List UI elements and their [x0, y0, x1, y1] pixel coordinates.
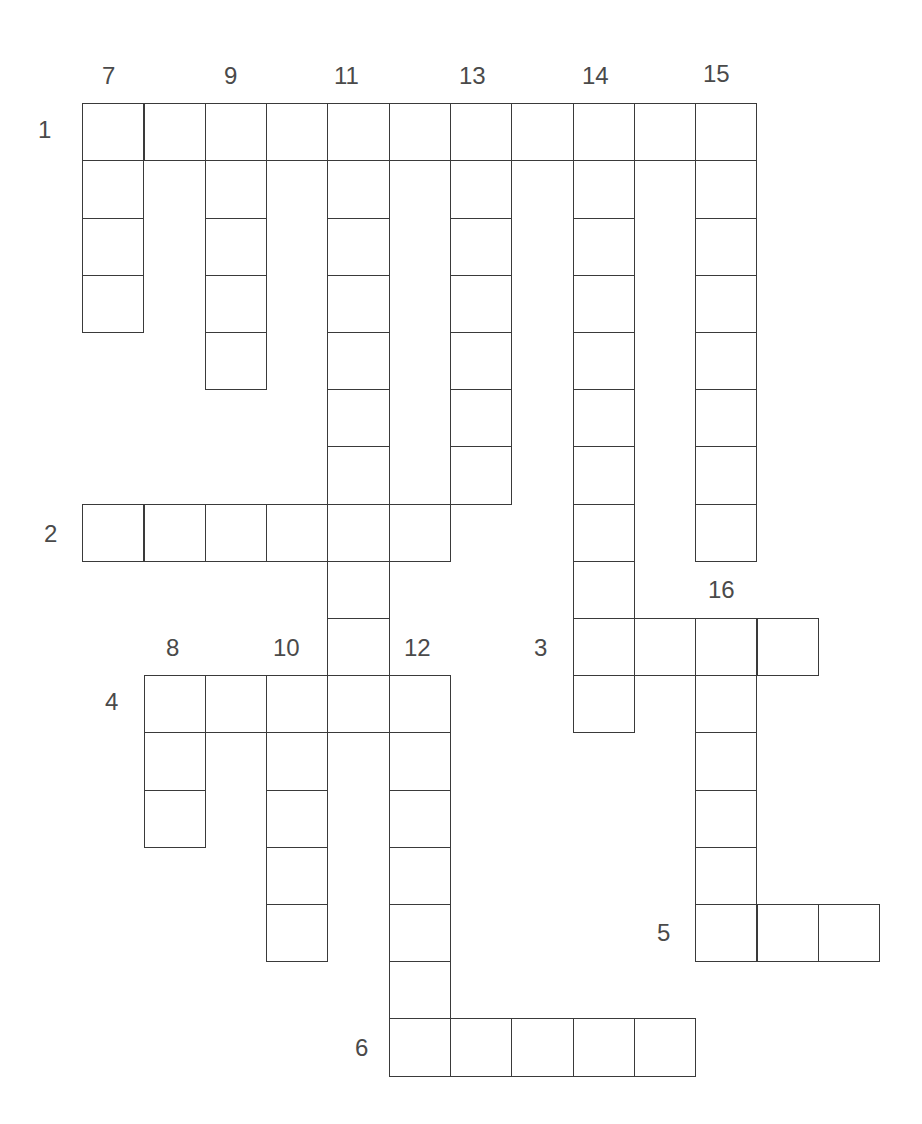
crossword-cell[interactable] [144, 504, 206, 562]
crossword-cell[interactable] [450, 218, 512, 276]
crossword-cell[interactable] [327, 275, 389, 333]
crossword-cell[interactable] [327, 446, 389, 504]
clue-number-label: 10 [273, 636, 300, 660]
crossword-cell[interactable] [573, 1018, 635, 1076]
crossword-cell[interactable] [695, 847, 757, 905]
crossword-cell[interactable] [144, 103, 206, 161]
crossword-cell[interactable] [573, 389, 635, 447]
crossword-cell[interactable] [82, 160, 144, 218]
crossword-cell[interactable] [573, 675, 635, 733]
crossword-cell[interactable] [389, 790, 451, 848]
crossword-cell[interactable] [695, 904, 757, 962]
crossword-cell[interactable] [205, 675, 267, 733]
crossword-cell[interactable] [695, 103, 757, 161]
crossword-cell[interactable] [205, 275, 267, 333]
crossword-cell[interactable] [450, 389, 512, 447]
crossword-cell[interactable] [389, 961, 451, 1019]
clue-number-label: 5 [657, 921, 670, 945]
crossword-cell[interactable] [327, 103, 389, 161]
clue-number-label: 3 [534, 636, 547, 660]
crossword-cell[interactable] [450, 275, 512, 333]
crossword-cell[interactable] [450, 446, 512, 504]
clue-number-label: 11 [334, 64, 359, 88]
crossword-cell[interactable] [511, 103, 573, 161]
crossword-cell[interactable] [695, 389, 757, 447]
crossword-cell[interactable] [266, 732, 328, 790]
crossword-cell[interactable] [266, 504, 328, 562]
clue-number-label: 2 [44, 522, 57, 546]
crossword-cell[interactable] [82, 103, 144, 161]
crossword-cell[interactable] [695, 160, 757, 218]
crossword-cell[interactable] [266, 675, 328, 733]
crossword-cell[interactable] [327, 675, 389, 733]
crossword-cell[interactable] [144, 675, 206, 733]
crossword-cell[interactable] [205, 160, 267, 218]
crossword-cell[interactable] [573, 504, 635, 562]
clue-number-label: 12 [404, 636, 431, 660]
crossword-cell[interactable] [327, 618, 389, 676]
crossword-cell[interactable] [327, 160, 389, 218]
crossword-cell[interactable] [573, 561, 635, 619]
crossword-cell[interactable] [205, 218, 267, 276]
crossword-cell[interactable] [634, 103, 696, 161]
crossword-cell[interactable] [757, 618, 819, 676]
crossword-cell[interactable] [695, 732, 757, 790]
crossword-cell[interactable] [450, 1018, 512, 1076]
crossword-cell[interactable] [327, 332, 389, 390]
crossword-cell[interactable] [573, 103, 635, 161]
crossword-cell[interactable] [757, 904, 819, 962]
crossword-cell[interactable] [573, 332, 635, 390]
clue-number-label: 13 [459, 64, 486, 88]
crossword-cell[interactable] [573, 446, 635, 504]
crossword-cell[interactable] [144, 790, 206, 848]
clue-number-label: 8 [166, 636, 179, 660]
crossword-cell[interactable] [327, 561, 389, 619]
crossword-cell[interactable] [82, 504, 144, 562]
crossword-cell[interactable] [450, 332, 512, 390]
crossword-cell[interactable] [266, 904, 328, 962]
crossword-cell[interactable] [205, 103, 267, 161]
crossword-cell[interactable] [266, 847, 328, 905]
crossword-cell[interactable] [695, 218, 757, 276]
crossword-cell[interactable] [450, 103, 512, 161]
crossword-cell[interactable] [389, 847, 451, 905]
crossword-cell[interactable] [144, 732, 206, 790]
crossword-cell[interactable] [266, 790, 328, 848]
crossword-cell[interactable] [389, 732, 451, 790]
clue-number-label: 4 [105, 690, 118, 714]
crossword-cell[interactable] [695, 675, 757, 733]
clue-number-label: 16 [708, 578, 735, 602]
crossword-cell[interactable] [327, 389, 389, 447]
crossword-cell[interactable] [573, 160, 635, 218]
crossword-cell[interactable] [389, 1018, 451, 1076]
clue-number-label: 15 [703, 62, 730, 86]
crossword-cell[interactable] [634, 1018, 696, 1076]
crossword-cell[interactable] [573, 218, 635, 276]
crossword-cell[interactable] [327, 218, 389, 276]
crossword-cell[interactable] [695, 618, 757, 676]
clue-number-label: 7 [102, 64, 115, 88]
crossword-cell[interactable] [389, 103, 451, 161]
crossword-cell[interactable] [634, 618, 696, 676]
crossword-cell[interactable] [573, 618, 635, 676]
crossword-cell[interactable] [389, 504, 451, 562]
crossword-cell[interactable] [695, 790, 757, 848]
crossword-cell[interactable] [327, 504, 389, 562]
crossword-cell[interactable] [695, 332, 757, 390]
crossword-cell[interactable] [818, 904, 880, 962]
crossword-cell[interactable] [389, 675, 451, 733]
crossword-cell[interactable] [82, 218, 144, 276]
crossword-cell[interactable] [695, 504, 757, 562]
crossword-cell[interactable] [450, 160, 512, 218]
clue-number-label: 6 [355, 1036, 368, 1060]
crossword-cell[interactable] [573, 275, 635, 333]
crossword-cell[interactable] [389, 904, 451, 962]
crossword-cell[interactable] [205, 332, 267, 390]
crossword-cell[interactable] [266, 103, 328, 161]
crossword-cell[interactable] [82, 275, 144, 333]
crossword-cell[interactable] [695, 446, 757, 504]
crossword-cell[interactable] [205, 504, 267, 562]
crossword-grid: 17911131415216381012456 [0, 0, 922, 1124]
crossword-cell[interactable] [695, 275, 757, 333]
crossword-cell[interactable] [511, 1018, 573, 1076]
